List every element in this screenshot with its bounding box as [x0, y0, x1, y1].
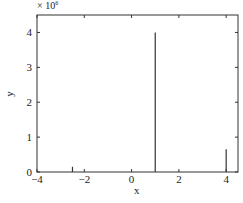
multiplier-exponent: 6 [55, 0, 58, 6]
multiplier-text: × 10 [37, 0, 55, 11]
stem-chart: −4−202401234 [0, 0, 243, 203]
x-tick-label: −4 [31, 173, 43, 185]
y-tick-label: 3 [27, 61, 33, 73]
x-tick-label: 2 [176, 173, 182, 185]
y-tick-label: 2 [27, 96, 33, 108]
y-tick-label: 0 [27, 166, 33, 178]
y-multiplier: × 106 [37, 0, 58, 11]
plot-frame [37, 15, 238, 172]
x-tick-label: 4 [223, 173, 229, 185]
x-tick-label: −2 [78, 173, 90, 185]
y-tick-label: 4 [27, 26, 33, 38]
x-axis-label: x [134, 184, 140, 196]
y-tick-label: 1 [27, 131, 33, 143]
y-axis-label: y [3, 91, 15, 97]
